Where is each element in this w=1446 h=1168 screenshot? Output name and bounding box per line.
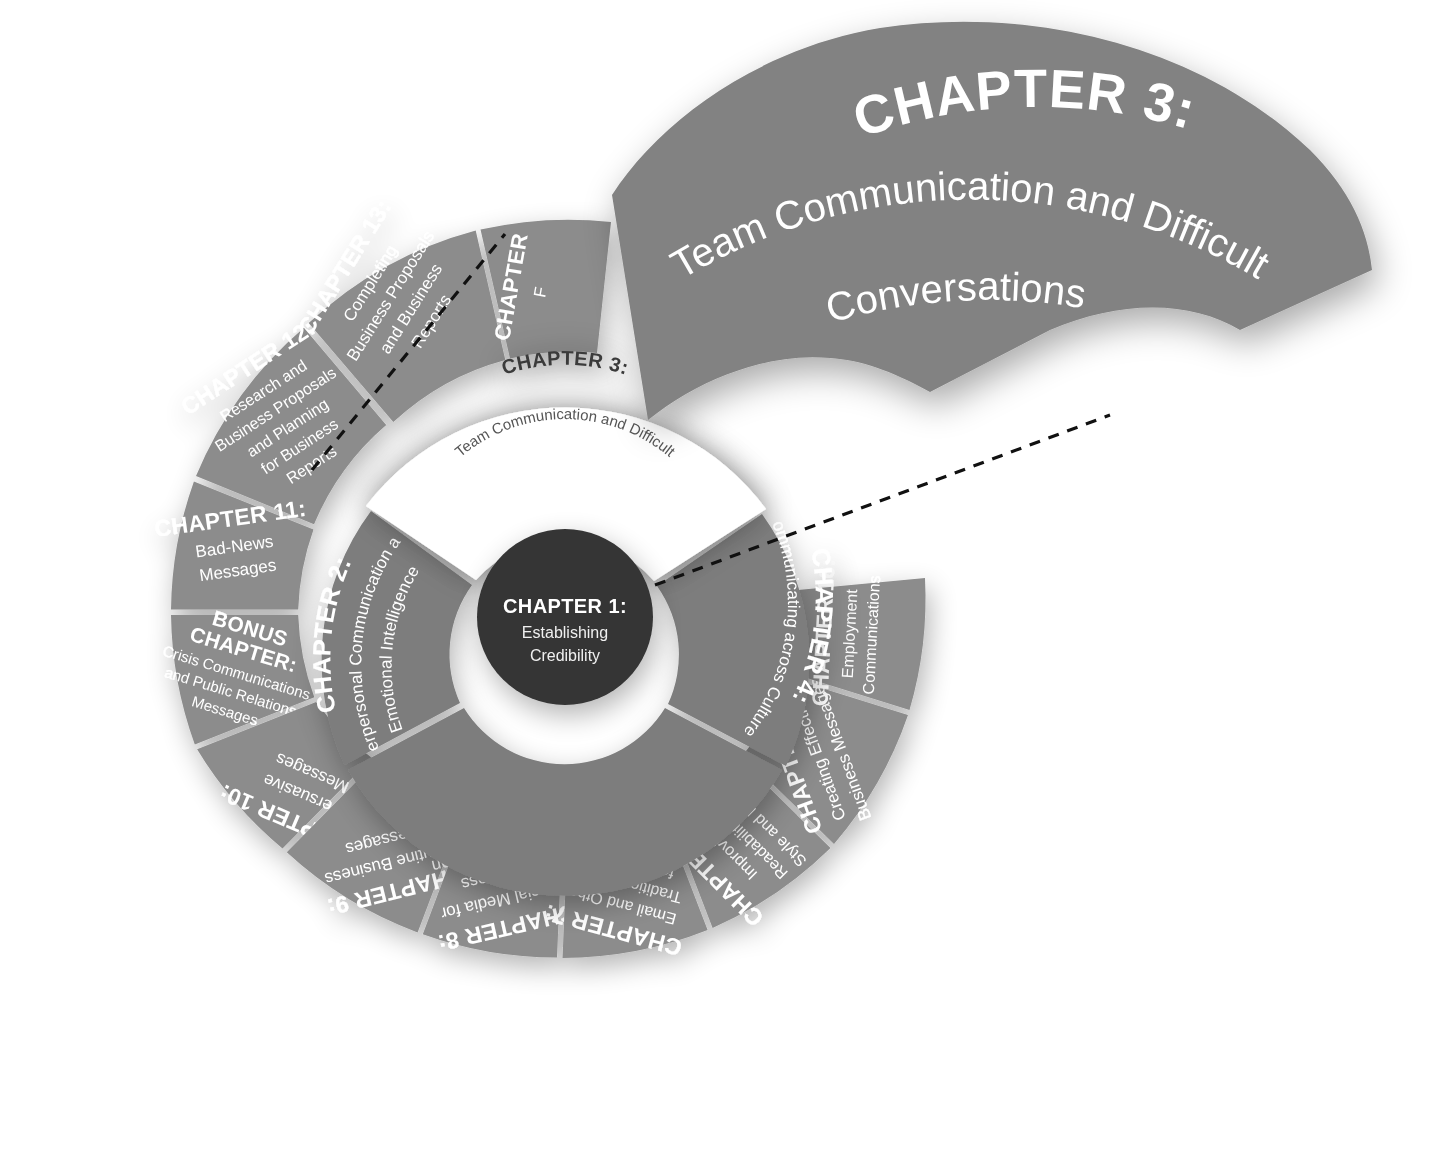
center-hub[interactable]: CHAPTER 1: Establishing Credibility xyxy=(477,529,653,705)
figure-canvas: CHAPTER 13: Completing Business Proposal… xyxy=(0,0,1446,1168)
hub-circle[interactable] xyxy=(477,529,653,705)
outer-segment-chapter-14[interactable]: CHAPTER F xyxy=(481,220,612,359)
hub-subtitle-line-2: Credibility xyxy=(530,647,600,664)
hub-title: CHAPTER 1: xyxy=(503,595,627,617)
hub-subtitle-line-1: Establishing xyxy=(522,624,608,641)
outer-segment-chapter-11[interactable]: CHAPTER 11: Bad-News Messages xyxy=(153,482,315,610)
callout-wedge[interactable]: CHAPTER 3: Team Communication and Diffic… xyxy=(612,22,1372,420)
